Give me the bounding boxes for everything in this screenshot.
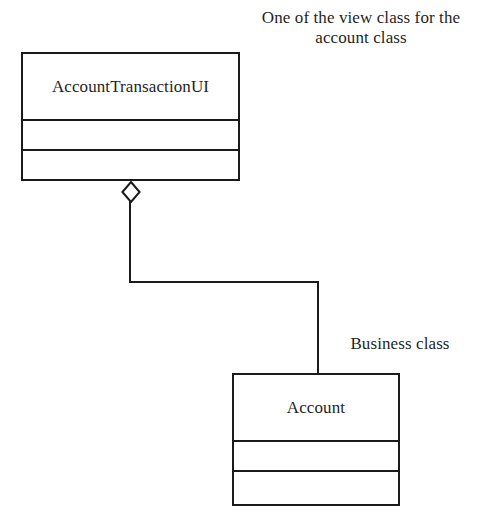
class-name-label: AccountTransactionUI (52, 77, 209, 97)
class-attributes-compartment (234, 440, 398, 470)
connector-segment-vertical-upper (129, 201, 131, 283)
class-name-compartment: AccountTransactionUI (23, 54, 238, 119)
aggregation-diamond-icon (121, 181, 141, 203)
uml-class-account[interactable]: Account (232, 373, 400, 506)
class-name-label: Account (287, 398, 345, 418)
class-attributes-compartment (23, 119, 238, 149)
uml-class-account-transaction-ui[interactable]: AccountTransactionUI (21, 52, 240, 181)
class-name-compartment: Account (234, 375, 398, 440)
connector-segment-horizontal (129, 281, 319, 283)
class-operations-compartment (23, 149, 238, 179)
connector-segment-vertical-lower (317, 281, 319, 374)
uml-class-diagram-canvas: One of the view class for the account cl… (0, 0, 499, 521)
annotation-business-class: Business class (320, 334, 480, 354)
class-operations-compartment (234, 470, 398, 504)
annotation-view-class: One of the view class for the account cl… (228, 8, 494, 48)
